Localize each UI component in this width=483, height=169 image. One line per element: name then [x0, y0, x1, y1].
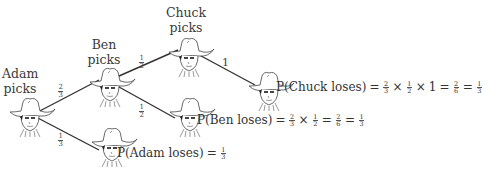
fraction: 13 — [359, 114, 364, 127]
equals-sign: = — [439, 80, 449, 94]
branch-prob-adam-to-ben: 2 3 — [58, 84, 63, 98]
node-label-ben: Ben picks — [86, 37, 122, 67]
node-label-adam-action: picks — [2, 81, 38, 96]
node-label-chuck-action: picks — [162, 20, 210, 35]
equals-sign: = — [207, 146, 217, 160]
equation-lhs: P(Adam loses) — [117, 146, 204, 160]
times-sign: × — [393, 80, 403, 94]
frac-den: 6 — [454, 88, 458, 94]
node-label-chuck: Chuck picks — [162, 5, 210, 35]
equation-lhs: P(Chuck loses) — [276, 80, 366, 94]
fraction: 12 — [313, 114, 318, 127]
equals-sign: = — [345, 113, 355, 127]
fraction: 13 — [477, 81, 482, 94]
cowboy-icon-adam — [8, 96, 56, 138]
branch-prob-ben-to-ben-loses: 1 2 — [139, 104, 144, 118]
cowboy-icon-ben — [88, 66, 136, 108]
fraction: 26 — [336, 114, 341, 127]
node-label-adam: Adam picks — [2, 66, 38, 96]
equation-chuck-loses: P(Chuck loses) = 23 × 12 × 1 = 26 = 13 — [276, 80, 483, 94]
equals-sign: = — [369, 80, 379, 94]
branch-prob-chuck-to-chuck-loses: 1 — [222, 56, 229, 69]
node-label-ben-name: Ben — [86, 37, 122, 52]
times-sign: × — [299, 113, 309, 127]
branch-prob-ben-to-chuck: 1 2 — [139, 55, 144, 69]
times-sign: × — [416, 80, 426, 94]
frac-den: 3 — [360, 121, 364, 127]
equation-lhs: P(Ben loses) — [197, 113, 272, 127]
frac-den: 3 — [59, 141, 63, 148]
cowboy-icon-chuck — [167, 36, 215, 78]
frac-den: 3 — [477, 88, 481, 94]
frac-den: 2 — [140, 112, 144, 119]
branch-prob-adam-to-adam-loses: 1 3 — [58, 133, 63, 147]
frac-den: 3 — [59, 92, 63, 99]
fraction: 26 — [454, 81, 459, 94]
fraction: 13 — [221, 147, 226, 160]
frac-den: 3 — [384, 88, 388, 94]
frac-den: 2 — [313, 121, 317, 127]
node-label-chuck-name: Chuck — [162, 5, 210, 20]
multiplier: 1 — [429, 80, 437, 94]
fraction: 12 — [407, 81, 412, 94]
frac-den: 3 — [290, 121, 294, 127]
fraction: 23 — [383, 81, 388, 94]
frac-den: 3 — [221, 154, 225, 160]
fraction: 23 — [289, 114, 294, 127]
equals-sign: = — [275, 113, 285, 127]
equation-adam-loses: P(Adam loses) = 13 — [117, 146, 227, 160]
equation-ben-loses: P(Ben loses) = 23 × 12 = 26 = 13 — [197, 113, 365, 127]
frac-den: 6 — [336, 121, 340, 127]
node-label-adam-name: Adam — [2, 66, 38, 81]
equals-sign: = — [463, 80, 473, 94]
equals-sign: = — [322, 113, 332, 127]
frac-den: 2 — [407, 88, 411, 94]
frac-den: 2 — [140, 63, 144, 70]
node-label-ben-action: picks — [86, 52, 122, 67]
